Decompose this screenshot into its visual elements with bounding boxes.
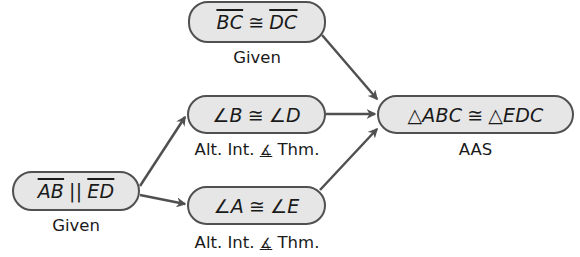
- reason-prefix: Alt. Int.: [195, 140, 260, 159]
- triangle-abc: △ABC: [407, 104, 462, 126]
- angle-b: ∠B: [212, 104, 242, 126]
- node-bc-congruent-dc: BC ≅ DC: [188, 1, 326, 43]
- segment-bc: BC: [216, 11, 243, 33]
- node-ab-parallel-ed: AB || ED: [12, 171, 140, 211]
- segment-dc: DC: [269, 11, 297, 33]
- arrow-angA-to-tri: [320, 129, 377, 190]
- angle-d: ∠D: [269, 104, 301, 126]
- arrow-abed-to-angA: [140, 195, 185, 204]
- arrow-bcdc-to-tri: [322, 35, 377, 99]
- reason-prefix: Alt. Int.: [195, 233, 260, 252]
- reason-suffix: Thm.: [272, 140, 319, 159]
- angle-a: ∠A: [213, 195, 243, 217]
- reason-suffix: Thm.: [272, 233, 319, 252]
- reason-given-abed: Given: [12, 216, 140, 235]
- angle-e: ∠E: [270, 195, 299, 217]
- reason-alt-int-angles-thm-1: Alt. Int. ∡ Thm.: [167, 140, 347, 159]
- triangle-edc: △EDC: [488, 104, 543, 126]
- congruent-symbol: ≅: [248, 104, 264, 126]
- reason-given-bcdc: Given: [188, 48, 326, 67]
- segment-ab: AB: [38, 180, 64, 202]
- congruent-symbol: ≅: [249, 195, 265, 217]
- reason-alt-int-angles-thm-2: Alt. Int. ∡ Thm.: [167, 233, 347, 252]
- segment-ed: ED: [87, 180, 114, 202]
- congruent-symbol: ≅: [467, 104, 483, 126]
- node-angleB-congruent-angleD: ∠B ≅ ∠D: [187, 95, 326, 134]
- congruent-symbol: ≅: [248, 11, 264, 33]
- reason-aas: AAS: [377, 140, 574, 159]
- angles-icon: ∡: [260, 142, 273, 158]
- node-angleA-congruent-angleE: ∠A ≅ ∠E: [187, 186, 326, 225]
- node-triangle-abc-congruent-edc: △ABC ≅ △EDC: [377, 95, 574, 134]
- angles-icon: ∡: [260, 235, 273, 251]
- parallel-symbol: ||: [69, 180, 82, 202]
